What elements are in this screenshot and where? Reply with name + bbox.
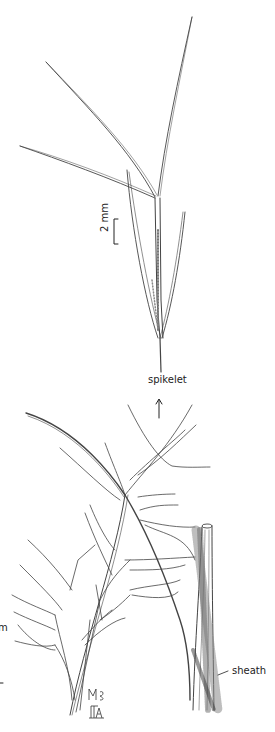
- spikelet-label: spikelet: [148, 375, 187, 385]
- inflorescence-drawing: [12, 405, 210, 715]
- sheath-label: sheath: [232, 666, 266, 676]
- sheath-drawing: [193, 524, 228, 710]
- partial-scale-label: m: [0, 623, 8, 633]
- botanical-illustration: [0, 0, 275, 732]
- scale-bar-label: 2 mm: [100, 203, 110, 232]
- spikelet-drawing: [20, 17, 192, 372]
- arrow-up-icon: [156, 399, 162, 418]
- illustrator-signature: [86, 686, 108, 720]
- scale-bar: [114, 219, 118, 244]
